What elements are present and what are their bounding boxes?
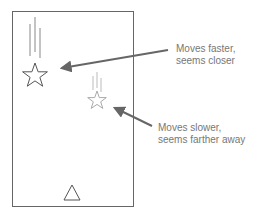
near-star-icon — [23, 63, 48, 86]
label-slow-line1: Moves slower, — [158, 122, 245, 134]
label-moves-slower: Moves slower, seems farther away — [158, 122, 245, 146]
near-star-motion-lines — [30, 17, 40, 58]
far-star-motion-lines — [93, 72, 101, 92]
arrow-fast — [62, 50, 168, 68]
label-slow-line2: seems farther away — [158, 134, 245, 146]
far-star-icon — [88, 91, 107, 108]
triangle-icon — [64, 185, 80, 200]
parallax-diagram — [0, 0, 254, 222]
label-fast-line2: seems closer — [176, 55, 235, 67]
label-fast-line1: Moves faster, — [176, 43, 235, 55]
label-moves-faster: Moves faster, seems closer — [176, 43, 235, 67]
